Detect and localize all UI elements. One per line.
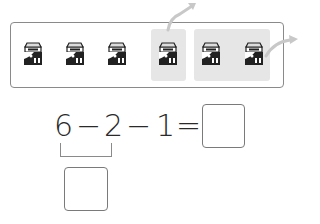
grouping-bracket xyxy=(60,143,112,157)
milk-carton-icon xyxy=(157,41,179,67)
milk-carton-icon xyxy=(106,41,128,67)
taken-away-2-arrow xyxy=(262,30,299,60)
number-two: 2 xyxy=(104,108,123,144)
number-one: 1 xyxy=(156,108,175,144)
equals-sign: = xyxy=(176,108,201,144)
milk-carton-icon xyxy=(22,41,44,67)
milk-carton-icon xyxy=(64,41,86,67)
intermediate-answer-box[interactable] xyxy=(64,167,108,211)
milk-carton-icon xyxy=(200,41,222,67)
answer-box[interactable] xyxy=(202,104,245,148)
minus-sign: − xyxy=(126,108,151,144)
number-six: 6 xyxy=(54,108,73,144)
taken-away-1-arrow xyxy=(160,0,200,32)
minus-sign: − xyxy=(76,108,101,144)
